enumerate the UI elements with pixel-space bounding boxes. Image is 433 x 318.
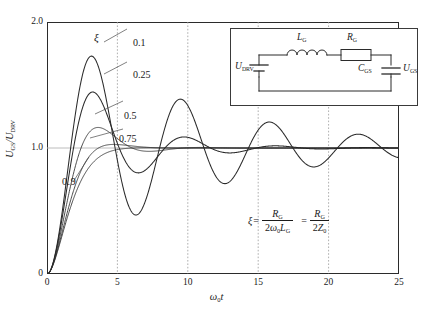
curve-label-0p1: 0.1 [133,37,146,48]
y-tick-2: 2.0 [31,16,43,26]
y-axis-title: UGS/UDRV [4,109,16,169]
x-tick-15: 15 [253,277,263,287]
output-symbol: U [403,63,410,73]
y-axis-title-denominator-symbol: U [4,133,15,140]
equation-fraction-1: RG 2ω0LG [262,208,293,233]
source-subscript: DRV [242,66,254,72]
curve-label-0p25: 0.25 [133,69,151,80]
x-axis-title-variable: t [220,291,223,302]
damping-ratio-equation: ξ = RG 2ω0LG = RG 2Z0 [248,208,331,233]
eq-den1-l-subscript: G [286,226,290,233]
x-axis-title-omega: ω [210,291,217,302]
label-leader-lines [73,29,127,182]
circuit-label-inductor: LG [297,32,307,43]
x-tick-20: 20 [324,277,334,287]
resistor-subscript: G [353,37,357,43]
equation-fraction-2: RG 2Z0 [310,208,330,233]
circuit-label-output: UGS [403,63,417,74]
equation-equals-2: = [300,215,308,226]
x-tick-5: 5 [115,277,120,287]
output-subscript: GS [410,68,418,74]
figure-rlc-step-response: 2.0 1.0 0 UGS/UDRV ξ 0.1 0.25 0.5 0.7 [0,0,433,318]
curve-label-0p75: 0.75 [119,133,137,144]
eq-num2-subscript: G [320,213,324,220]
y-axis-title-numerator-subscript: GS [9,143,16,151]
curve-label-0p9: 0.9 [62,176,76,187]
curve-zeta-0p5 [47,127,399,274]
curve-label-0p5: 0.5 [124,110,137,121]
equation-fraction-1-denominator: 2ω0LG [262,220,293,234]
source-symbol: U [235,61,242,71]
leader-line-0p1 [104,29,127,42]
curve-zeta-0p75 [47,144,399,274]
curve-zeta-0p9 [47,148,399,274]
x-tick-0: 0 [45,277,50,287]
eq-num1-subscript: G [278,213,282,220]
equation-equals-1: = [252,215,260,226]
x-axis-title: ω0t [0,291,433,303]
y-axis-title-denominator-subscript: DRV [9,120,16,133]
equation-fraction-1-numerator: RG [269,208,286,220]
eq-den2-z-subscript: 0 [323,226,326,233]
capacitor-subscript: GS [364,68,372,74]
resistor-body [341,50,371,61]
equation-fraction-2-numerator: RG [311,208,328,220]
circuit-schematic [231,29,419,107]
equation-fraction-2-denominator: 2Z0 [310,220,330,234]
leader-line-0p25 [104,62,127,74]
circuit-label-capacitor: CGS [358,63,372,74]
x-tick-25: 25 [394,277,404,287]
inductor-subscript: G [302,37,306,43]
y-axis-title-numerator-symbol: U [4,151,15,158]
x-tick-10: 10 [183,277,193,287]
y-tick-1: 1.0 [31,142,43,152]
eq-den1-omega: ω [270,222,277,233]
inductor-coil [287,50,327,55]
circuit-label-source: UDRV [235,61,254,72]
curve-label-xi-symbol: ξ [94,31,99,43]
circuit-label-resistor: RG [347,32,357,43]
inset-circuit-diagram: UDRV LG RG CGS UGS [230,28,418,106]
